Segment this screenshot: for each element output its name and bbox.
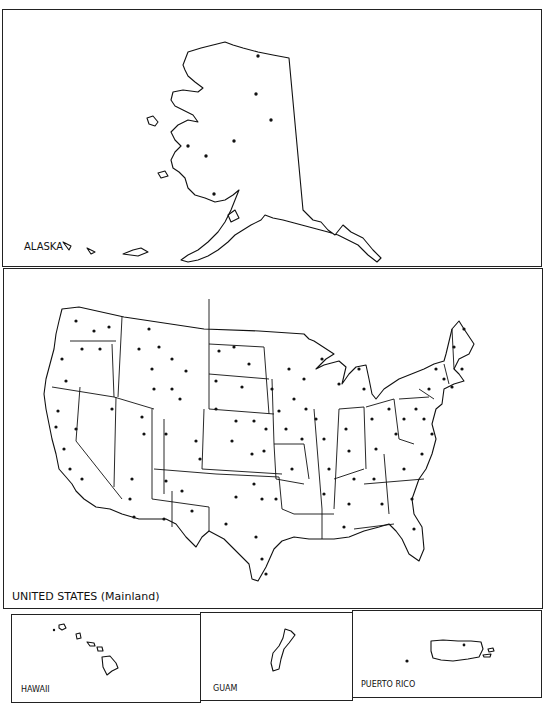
hawaii-label: HAWAII (21, 685, 50, 694)
mainland-panel: UNITED STATES (Mainland) (3, 268, 543, 609)
city-markers (54, 319, 465, 575)
alaska-map (3, 10, 543, 268)
mainland-map (4, 269, 544, 610)
puerto-rico-panel: PUERTO RICO (352, 610, 542, 698)
alaska-panel: ALASKA (2, 9, 542, 267)
guam-panel: GUAM (200, 612, 353, 701)
alaska-label: ALASKA (24, 241, 63, 252)
puerto-rico-label: PUERTO RICO (361, 680, 415, 689)
hawaii-panel: HAWAII (11, 614, 201, 703)
mainland-label: UNITED STATES (Mainland) (12, 590, 159, 603)
guam-label: GUAM (213, 684, 237, 693)
